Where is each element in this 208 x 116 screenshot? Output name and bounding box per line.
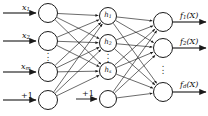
input-label-x1: x1: [22, 4, 30, 13]
node-od: [154, 83, 173, 102]
hidden-node-label-h1: h1: [104, 12, 112, 20]
input-label-xm: xm: [21, 63, 31, 72]
node-in3: [39, 63, 58, 82]
edges-input-to-hidden: [54, 14, 103, 96]
node-in1: [39, 4, 58, 23]
hidden-node-label-h2: h2: [104, 39, 112, 47]
hidden-node-label-hs: hs: [105, 67, 112, 75]
node-o1: [154, 13, 173, 32]
input-label-x2: x2: [22, 32, 30, 41]
output-label-fd: fd(X): [180, 81, 198, 90]
io-arrows: [3, 13, 206, 100]
output-layer-ellipsis: ...: [162, 63, 165, 74]
output-label-f1: f1(X): [180, 12, 198, 21]
neural-network-diagram: x1 x2 xm +1 +1 f1(X) f2(X) fd(X) ... ...…: [0, 0, 208, 116]
node-hbias: [100, 91, 117, 108]
output-label-f2: f2(X): [180, 38, 198, 47]
node-o2: [154, 39, 173, 58]
input-label-bias: +1: [21, 92, 33, 100]
hidden-layer-ellipsis: ...: [107, 51, 110, 62]
edges-hidden-to-output: [113, 17, 157, 98]
node-in4: [39, 91, 58, 110]
input-layer-ellipsis: ...: [47, 50, 50, 61]
hidden-bias-label: +1: [82, 90, 94, 98]
